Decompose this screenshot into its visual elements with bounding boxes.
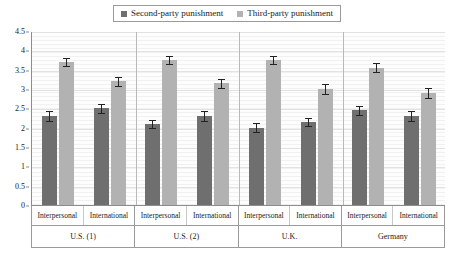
error-bar-cap-top bbox=[356, 106, 363, 107]
error-bar-cap-bottom bbox=[46, 121, 53, 122]
y-tick-mark bbox=[26, 206, 29, 207]
error-bar-cap-top bbox=[270, 56, 277, 57]
subcategory-label: International bbox=[393, 206, 444, 225]
error-bar bbox=[204, 111, 205, 122]
legend-entry-third-party: Third-party punishment bbox=[237, 9, 333, 18]
y-tick-label: 3 bbox=[21, 86, 25, 94]
category-axis-table: InterpersonalInternationalU.S. (1)Interp… bbox=[31, 206, 445, 248]
error-bar bbox=[359, 106, 360, 115]
bar bbox=[42, 116, 57, 205]
bar bbox=[162, 60, 177, 205]
bar bbox=[421, 93, 436, 205]
error-bar bbox=[325, 84, 326, 93]
y-tick-mark bbox=[26, 51, 29, 52]
error-bar bbox=[256, 123, 257, 132]
bar-chart: Second-party punishment Third-party puni… bbox=[0, 0, 452, 253]
category-group-label: Germany bbox=[342, 226, 444, 247]
error-bar-cap-top bbox=[322, 84, 329, 85]
error-bar-cap-top bbox=[46, 111, 53, 112]
y-tick-label: 0.5 bbox=[15, 183, 25, 191]
error-bar-cap-top bbox=[305, 118, 312, 119]
error-bar-cap-bottom bbox=[408, 121, 415, 122]
category-group: InterpersonalInternationalU.S. (1) bbox=[32, 206, 135, 247]
error-bar-cap-top bbox=[98, 104, 105, 105]
error-bar bbox=[221, 79, 222, 88]
error-bar bbox=[152, 120, 153, 129]
y-tick-label: 2.5 bbox=[15, 105, 25, 113]
error-bar-cap-top bbox=[166, 56, 173, 57]
error-bar-cap-bottom bbox=[218, 88, 225, 89]
y-tick-label: 3.5 bbox=[15, 67, 25, 75]
error-bar-cap-bottom bbox=[201, 121, 208, 122]
legend-label-second-party: Second-party punishment bbox=[131, 9, 223, 18]
y-tick-label: 0 bbox=[21, 202, 25, 210]
subcategory-label: Interpersonal bbox=[342, 206, 394, 225]
legend-swatch-second-party bbox=[121, 11, 127, 17]
bar bbox=[318, 89, 333, 205]
subcategory-label: International bbox=[290, 206, 341, 225]
error-bar bbox=[101, 104, 102, 113]
subcategory-label: International bbox=[187, 206, 238, 225]
bars-layer bbox=[32, 32, 445, 205]
bar bbox=[197, 116, 212, 205]
bar bbox=[352, 110, 367, 205]
subcategory-row: InterpersonalInternational bbox=[239, 206, 341, 226]
y-tick-mark bbox=[26, 70, 29, 71]
bar bbox=[249, 128, 264, 205]
error-bar bbox=[49, 111, 50, 121]
bar bbox=[111, 81, 126, 205]
category-group-label: U.S. (2) bbox=[135, 226, 237, 247]
error-bar-cap-top bbox=[149, 120, 156, 121]
bar bbox=[59, 62, 74, 205]
error-bar bbox=[308, 118, 309, 127]
error-bar-cap-bottom bbox=[115, 86, 122, 87]
error-bar-cap-bottom bbox=[356, 115, 363, 116]
subcategory-row: InterpersonalInternational bbox=[135, 206, 237, 226]
subcategory-label: Interpersonal bbox=[32, 206, 84, 225]
subcategory-label: Interpersonal bbox=[239, 206, 291, 225]
error-bar bbox=[66, 58, 67, 67]
group-separator bbox=[239, 32, 240, 205]
error-bar-cap-bottom bbox=[322, 94, 329, 95]
error-bar bbox=[428, 88, 429, 97]
subcategory-label: Interpersonal bbox=[135, 206, 187, 225]
error-bar bbox=[169, 56, 170, 65]
bar bbox=[301, 122, 316, 205]
category-group: InterpersonalInternationalU.K. bbox=[239, 206, 342, 247]
error-bar-cap-bottom bbox=[270, 64, 277, 65]
y-axis: 00.511.522.533.544.5 bbox=[0, 32, 29, 206]
plot-area bbox=[31, 32, 445, 206]
subcategory-row: InterpersonalInternational bbox=[342, 206, 444, 226]
error-bar-cap-bottom bbox=[373, 72, 380, 73]
error-bar-cap-bottom bbox=[425, 98, 432, 99]
category-group: InterpersonalInternationalGermany bbox=[342, 206, 444, 247]
y-tick-mark bbox=[26, 128, 29, 129]
y-tick-mark bbox=[26, 186, 29, 187]
error-bar-cap-bottom bbox=[305, 126, 312, 127]
bar bbox=[94, 108, 109, 205]
category-group-label: U.S. (1) bbox=[32, 226, 134, 247]
y-tick-label: 2 bbox=[21, 125, 25, 133]
y-tick-mark bbox=[26, 32, 29, 33]
error-bar-cap-bottom bbox=[63, 66, 70, 67]
error-bar-cap-top bbox=[201, 111, 208, 112]
chart-legend: Second-party punishment Third-party puni… bbox=[113, 5, 341, 22]
y-tick-label: 4 bbox=[21, 47, 25, 55]
legend-label-third-party: Third-party punishment bbox=[247, 9, 333, 18]
y-tick-mark bbox=[26, 148, 29, 149]
group-separator bbox=[136, 32, 137, 205]
error-bar-cap-top bbox=[63, 58, 70, 59]
y-tick-label: 4.5 bbox=[15, 28, 25, 36]
bar bbox=[145, 124, 160, 205]
y-tick-mark bbox=[26, 167, 29, 168]
error-bar-cap-top bbox=[115, 77, 122, 78]
error-bar-cap-top bbox=[373, 63, 380, 64]
error-bar-cap-bottom bbox=[253, 132, 260, 133]
y-tick-label: 1.5 bbox=[15, 144, 25, 152]
error-bar bbox=[411, 111, 412, 122]
error-bar-cap-bottom bbox=[149, 128, 156, 129]
subcategory-label: International bbox=[84, 206, 135, 225]
error-bar bbox=[273, 56, 274, 65]
y-tick-label: 1 bbox=[21, 163, 25, 171]
bar bbox=[214, 83, 229, 205]
